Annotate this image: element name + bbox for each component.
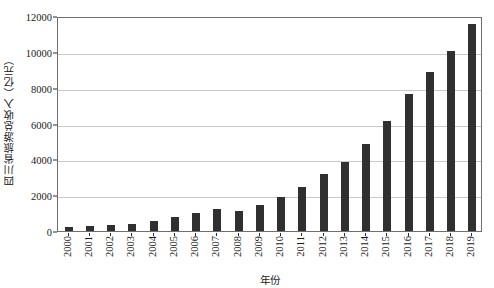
- bar: [213, 209, 221, 231]
- y-tick-label: 12000: [26, 12, 52, 23]
- plot-area: [57, 17, 482, 232]
- x-tick-label: 2004: [148, 236, 159, 257]
- bar: [171, 217, 179, 231]
- x-tick-label: 2017: [424, 236, 435, 257]
- bar: [150, 221, 158, 231]
- y-axis-ticks: 020004000600080001000012000: [18, 0, 57, 288]
- bar: [256, 205, 264, 231]
- bar: [86, 226, 94, 231]
- y-tick-label: 8000: [31, 83, 52, 94]
- x-tick-label: 2016: [403, 236, 414, 257]
- x-axis-title: 年份: [57, 272, 482, 287]
- bar: [235, 211, 243, 231]
- x-tick-label: 2005: [169, 236, 180, 257]
- y-tick-label: 6000: [31, 119, 52, 130]
- bar: [468, 24, 476, 231]
- x-tick-label: 2015: [381, 236, 392, 257]
- y-axis-title-text: 四川省旅游总收入（亿元）: [4, 54, 15, 186]
- x-tick-label: 2010: [275, 236, 286, 257]
- y-axis-title: 四川省旅游总收入（亿元）: [0, 0, 18, 240]
- x-tick-label: 2012: [318, 236, 329, 257]
- bar: [341, 162, 349, 231]
- x-tick-label: 2006: [190, 236, 201, 257]
- bar: [107, 225, 115, 231]
- x-tick-label: 2001: [84, 236, 95, 257]
- bar: [447, 51, 455, 231]
- x-tick-label: 2008: [233, 236, 244, 257]
- x-axis-ticks: 2000200120022003200420052006200720082009…: [57, 233, 482, 275]
- bar: [426, 72, 434, 231]
- bar: [277, 197, 285, 231]
- bar: [405, 94, 413, 231]
- bar: [383, 121, 391, 231]
- bar: [320, 174, 328, 231]
- chart-figure: 四川省旅游总收入（亿元） 020004000600080001000012000…: [0, 0, 494, 288]
- bar: [298, 187, 306, 231]
- x-tick-label: 2011: [296, 236, 307, 257]
- bar: [65, 227, 73, 231]
- x-tick-label: 2014: [360, 236, 371, 257]
- y-tick-label: 10000: [26, 47, 52, 58]
- x-tick-label: 2019: [466, 236, 477, 257]
- x-tick-label: 2007: [211, 236, 222, 257]
- bar: [128, 224, 136, 231]
- x-tick-label: 2009: [254, 236, 265, 257]
- x-tick-label: 2002: [105, 236, 116, 257]
- y-tick-label: 2000: [31, 191, 52, 202]
- y-tick-label: 4000: [31, 155, 52, 166]
- bar: [192, 213, 200, 231]
- x-tick-label: 2013: [339, 236, 350, 257]
- bar-series: [58, 18, 481, 231]
- y-tick-label: 0: [47, 227, 52, 238]
- x-tick-label: 2018: [445, 236, 456, 257]
- x-tick-label: 2003: [126, 236, 137, 257]
- x-tick-label: 2000: [63, 236, 74, 257]
- bar: [362, 144, 370, 231]
